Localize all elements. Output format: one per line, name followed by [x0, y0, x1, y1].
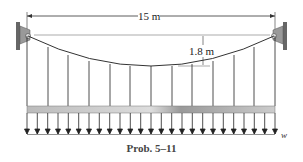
cable-diagram: [0, 0, 303, 162]
span-label: 15 m: [138, 10, 160, 22]
caption: Prob. 5–11: [0, 142, 303, 154]
deck: [27, 106, 275, 113]
hangers: [27, 36, 275, 106]
load-label: w: [281, 130, 287, 140]
cable: [28, 36, 274, 66]
distributed-load-arrows: [25, 113, 278, 135]
sag-label: 1.8 m: [189, 45, 214, 57]
